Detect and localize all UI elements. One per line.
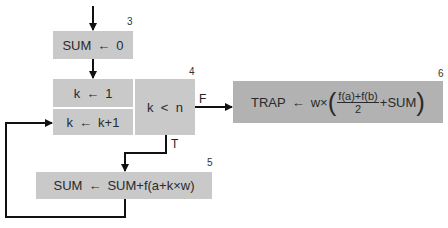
branch-label-false: F	[199, 92, 206, 106]
node-lhs: k	[67, 115, 74, 130]
assign-arrow-icon: ←	[292, 95, 305, 110]
condition-text: k < n	[147, 100, 183, 115]
right-paren: )	[416, 89, 425, 115]
step-number-6: 6	[438, 68, 444, 79]
assign-arrow-icon: ←	[86, 86, 99, 101]
fraction-numerator: f(a)+f(b)	[337, 90, 378, 103]
branch-label-true: T	[171, 137, 178, 151]
node-accumulate-sum: SUM ← SUM+f(a+k×w)	[36, 172, 212, 199]
node-rhs: 1	[105, 86, 112, 101]
node-increment-k: k ← k+1	[53, 109, 133, 135]
node-lhs: k	[74, 86, 81, 101]
node-condition: k < n	[135, 79, 195, 135]
node-init-k: k ← 1	[53, 79, 133, 107]
step-number-4: 4	[189, 66, 195, 77]
node-lhs: TRAP	[251, 95, 286, 110]
step-number-3: 3	[127, 16, 133, 27]
node-trap-result: TRAP ← w× ( f(a)+f(b) 2 +SUM )	[233, 81, 443, 123]
rhs-prefix: w×	[311, 95, 328, 110]
fraction-denominator: 2	[355, 103, 361, 115]
node-lhs: SUM	[62, 38, 91, 53]
step-number-5: 5	[207, 157, 213, 168]
node-init-sum: SUM ← 0	[53, 31, 133, 59]
rhs-suffix: +SUM	[380, 95, 416, 110]
assign-arrow-icon: ←	[88, 178, 101, 193]
node-rhs: SUM+f(a+k×w)	[107, 178, 194, 193]
node-rhs: k+1	[98, 115, 119, 130]
node-lhs: SUM	[54, 178, 83, 193]
fraction: f(a)+f(b) 2	[337, 90, 378, 115]
assign-arrow-icon: ←	[97, 38, 110, 53]
node-rhs: 0	[116, 38, 123, 53]
left-paren: (	[328, 89, 337, 115]
assign-arrow-icon: ←	[79, 115, 92, 130]
